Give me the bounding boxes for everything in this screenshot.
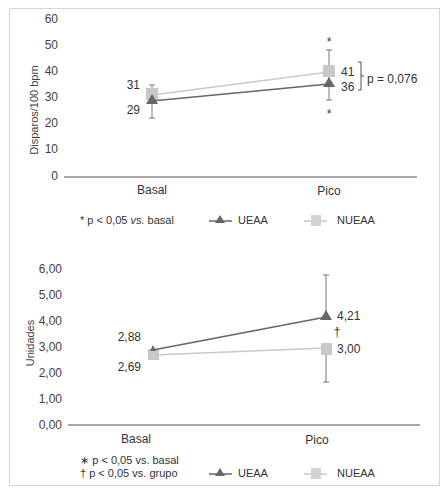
y-tick: 5,00 [39, 288, 63, 302]
significance-star: * [327, 35, 332, 49]
x-tick-basal: Basal [137, 183, 167, 197]
bottom-legend-symbols [209, 468, 327, 479]
bottom-legend-note-2: † p < 0,05 vs. grupo [80, 467, 178, 479]
y-tick: 6,00 [39, 262, 63, 276]
bottom-chart: 6,00 5,00 4,00 3,00 2,00 1,00 0,00 Unida… [24, 262, 420, 447]
nueaa-line [152, 72, 329, 95]
value-label: 41 [341, 65, 355, 79]
y-axis-title: Disparos/100 bpm [28, 65, 40, 154]
y-tick: 0,00 [39, 418, 63, 432]
y-axis-title: Unidades [24, 319, 36, 366]
value-label: 31 [127, 78, 141, 92]
y-tick: 3,00 [39, 340, 63, 354]
ueaa-line [152, 84, 329, 101]
top-legend-symbols [209, 215, 327, 226]
p-value-annotation: p = 0,076 [367, 72, 418, 86]
nueaa-line [153, 348, 326, 355]
value-label: 3,00 [337, 342, 361, 356]
x-tick-pico: Pico [317, 184, 341, 198]
top-legend-ueaa: UEAA [238, 214, 268, 226]
value-label: 2,69 [118, 360, 142, 374]
ueaa-line [153, 317, 326, 350]
ueaa-marker-pico [323, 77, 335, 87]
y-tick: 50 [45, 38, 59, 52]
value-label: 36 [341, 80, 355, 94]
y-tick: 0 [51, 169, 58, 183]
y-tick: 40 [45, 64, 59, 78]
legend-note-vs: vs. [130, 214, 144, 226]
value-label: 4,21 [337, 309, 361, 323]
nueaa-marker-pico [321, 343, 332, 355]
x-tick-basal: Basal [121, 432, 151, 446]
y-tick: 60 [45, 12, 59, 26]
dagger-annotation: † [334, 325, 341, 339]
bottom-legend-nueaa: NUEAA [337, 467, 375, 479]
value-label: 29 [127, 103, 141, 117]
y-tick: 2,00 [39, 366, 63, 380]
ueaa-marker-pico [320, 310, 332, 320]
top-chart: 60 50 40 30 20 10 0 Disparos/100 bpm Bas… [28, 12, 418, 198]
y-tick: 10 [45, 142, 59, 156]
bottom-legend-ueaa: UEAA [238, 467, 268, 479]
y-tick: 4,00 [39, 314, 63, 328]
y-tick: 1,00 [39, 392, 63, 406]
nueaa-marker-pico [323, 65, 335, 77]
star-glyph: * [80, 214, 84, 226]
top-legend-note: * p < 0,05 vs. basal [80, 214, 174, 226]
charts-canvas: 60 50 40 30 20 10 0 Disparos/100 bpm Bas… [0, 0, 447, 493]
value-label: 2,88 [118, 330, 142, 344]
legend-note-basal: basal [145, 214, 174, 226]
y-tick: 20 [45, 116, 59, 130]
error-bars [323, 275, 329, 382]
ueaa-marker-basal [150, 345, 156, 351]
bottom-legend-note-1: ∗ p < 0,05 vs. basal [80, 454, 179, 467]
y-tick: 30 [45, 90, 59, 104]
significance-star: * [327, 107, 332, 121]
x-tick-pico: Pico [305, 433, 329, 447]
significance-bracket [358, 62, 364, 90]
top-legend-nueaa: NUEAA [337, 214, 375, 226]
legend-note-text: p < 0,05 [87, 214, 130, 226]
